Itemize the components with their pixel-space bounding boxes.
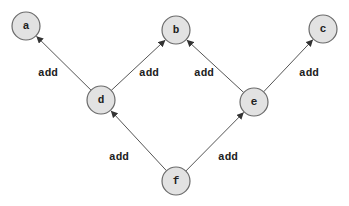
edge-label: add [299, 67, 319, 79]
edge-label: add [218, 151, 238, 163]
node-a: a [12, 12, 40, 40]
node-label: b [173, 24, 180, 36]
node-label: a [23, 20, 30, 32]
edge-f-to-d: add [109, 111, 166, 171]
node-label: c [320, 23, 327, 35]
edge-label: add [194, 67, 214, 79]
node-label: d [98, 94, 105, 106]
edge-label: add [38, 67, 58, 79]
edge-arrow [36, 36, 91, 90]
edge-arrow [264, 40, 313, 92]
edge-e-to-c: add [264, 40, 319, 92]
edge-label: add [139, 67, 159, 79]
edge-e-to-b: add [187, 40, 244, 93]
node-c: c [309, 15, 337, 43]
edge-f-to-e: add [186, 112, 244, 171]
nodes-layer: abcdef [12, 12, 337, 195]
edge-label: add [109, 151, 129, 163]
node-label: e [251, 96, 258, 108]
edge-arrow [111, 40, 165, 91]
edge-d-to-b: add [111, 40, 165, 91]
node-d: d [87, 86, 115, 114]
node-f: f [162, 167, 190, 195]
edges-layer: addaddaddaddaddadd [36, 36, 319, 171]
node-b: b [162, 16, 190, 44]
node-label: f [173, 175, 180, 187]
edge-d-to-a: add [36, 36, 91, 90]
node-e: e [240, 88, 268, 116]
graph-canvas: addaddaddaddaddadd abcdef [0, 0, 349, 206]
